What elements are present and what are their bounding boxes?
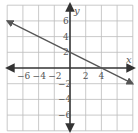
x-tick-label: −6 bbox=[17, 71, 31, 81]
x-axis-label: x bbox=[126, 54, 132, 65]
y-tick-label: −2 bbox=[58, 79, 71, 89]
y-tick-label: 6 bbox=[63, 16, 69, 26]
y-tick-label: −4 bbox=[58, 94, 72, 104]
y-axis-label: y bbox=[73, 5, 80, 16]
x-tick-label: −4 bbox=[33, 71, 47, 81]
x-tick-label: 4 bbox=[98, 71, 104, 81]
y-tick-label: 4 bbox=[63, 32, 69, 42]
y-tick-label: −6 bbox=[58, 110, 72, 120]
coordinate-plane: x y −6−4−224 642−2−4−6 bbox=[0, 0, 138, 133]
x-tick-label: 2 bbox=[83, 71, 89, 81]
y-tick-label: 2 bbox=[63, 47, 69, 57]
